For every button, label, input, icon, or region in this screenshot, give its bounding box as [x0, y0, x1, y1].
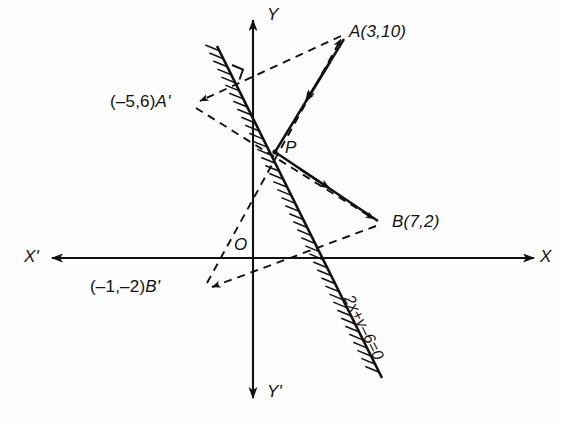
x-axis-label: X: [540, 247, 552, 267]
ray-A-to-P: [275, 39, 344, 152]
dashed-A-to-Aprime: [200, 36, 341, 101]
point-P-label: P: [285, 138, 297, 158]
point-B-label: B(7,2): [392, 212, 440, 232]
point-A-prime-coords: (–5,6): [110, 92, 156, 111]
point-A-prime-name: A': [156, 92, 171, 111]
ray-P-to-B-arrowhead: [300, 169, 329, 188]
y-axis-label: Y: [267, 5, 279, 25]
x-axis-negative-label: X': [24, 247, 39, 267]
point-B-label-text: B(7,2): [392, 212, 440, 231]
y-axis-negative-label: Y': [267, 382, 282, 402]
point-P-dot: [272, 149, 277, 154]
dashed-Aprime-to-B: [196, 108, 374, 219]
point-B-prime-label: (–1,–2)B': [90, 277, 160, 297]
geometry-figure: Y Y' X X' O A(3,10) B(7,2) (–5,6)A' (–1,…: [0, 0, 561, 421]
point-B-prime-name: B': [145, 277, 160, 296]
origin-label: O: [234, 235, 247, 255]
point-B-prime-coords: (–1,–2): [90, 277, 145, 296]
point-A-label-text: A(3,10): [349, 22, 406, 41]
ray-P-to-B: [275, 152, 378, 221]
point-A-prime-label: (–5,6)A': [110, 92, 171, 112]
ray-A-to-P-arrowhead: [306, 62, 330, 101]
point-A-label: A(3,10): [349, 22, 406, 42]
figure-canvas: [0, 0, 561, 421]
